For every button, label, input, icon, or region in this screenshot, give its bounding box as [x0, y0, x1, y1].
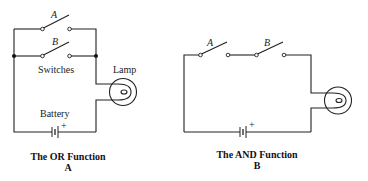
and-switch-b-blade	[258, 42, 284, 54]
or-lamp-label: Lamp	[113, 64, 136, 75]
logic-circuits-figure: A B Switches Lamp + Battery	[0, 0, 368, 181]
and-battery-icon	[184, 126, 311, 138]
or-battery-polarity: +	[61, 120, 67, 131]
or-battery-icon	[50, 126, 96, 138]
or-caption: The OR Function	[30, 151, 105, 162]
or-switch-b-label: B	[52, 36, 58, 47]
or-lamp-wire-bottom	[96, 100, 118, 132]
and-switch-b-terminal-right	[282, 53, 286, 57]
and-lamp-icon	[325, 87, 352, 114]
and-left-wire	[184, 55, 199, 132]
and-switch-a-blade	[202, 42, 228, 54]
and-caption: The AND Function	[216, 149, 298, 160]
and-battery-polarity: +	[249, 119, 255, 130]
or-switch-a-label: A	[50, 9, 58, 20]
or-switch-b-terminal-right	[68, 54, 72, 58]
and-sublabel: B	[254, 160, 261, 171]
or-branch-a-right	[71, 29, 96, 56]
or-switch-a-terminal-right	[68, 27, 72, 31]
or-switches-label: Switches	[38, 64, 74, 75]
or-battery-label: Battery	[40, 108, 69, 119]
or-junction-left	[12, 54, 16, 58]
or-circuit: A B Switches Lamp + Battery	[12, 9, 137, 173]
and-switch-a-terminal-right	[226, 53, 230, 57]
and-lamp-wire-top	[286, 55, 333, 93]
or-lamp-icon	[110, 79, 137, 106]
and-circuit: A B + The AND Function B	[184, 37, 352, 171]
and-switch-b-label: B	[264, 37, 270, 48]
or-sublabel: A	[64, 162, 72, 173]
and-switch-a-label: A	[206, 37, 214, 48]
